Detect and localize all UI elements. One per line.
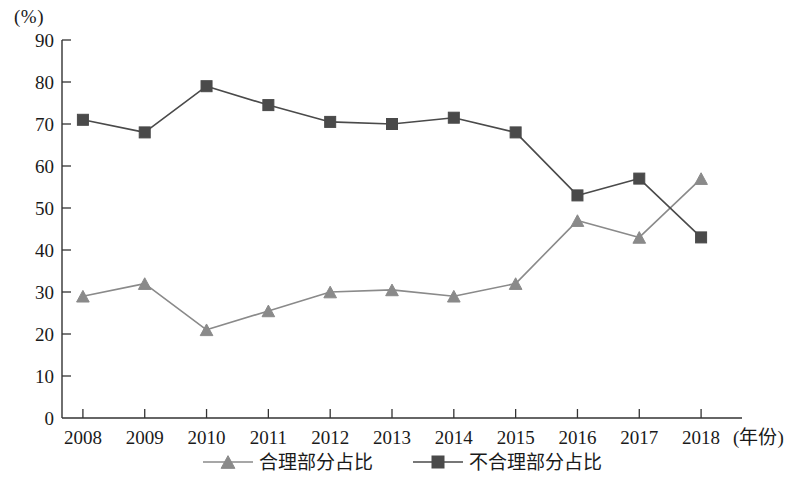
y-tick-label: 20 <box>8 325 54 344</box>
legend-item: 不合理部分占比 <box>411 452 602 472</box>
y-tick-label: 30 <box>8 283 54 302</box>
x-tick-label: 2008 <box>53 428 113 447</box>
square-marker-icon <box>411 452 465 472</box>
y-tick-label: 70 <box>8 115 54 134</box>
x-tick-label: 2018 <box>671 428 731 447</box>
x-axis-ticks <box>83 409 701 418</box>
legend-label: 合理部分占比 <box>259 453 373 472</box>
series-2 <box>77 81 706 243</box>
x-tick-label: 2014 <box>424 428 484 447</box>
series-1 <box>77 173 708 336</box>
y-tick-label: 50 <box>8 199 54 218</box>
line-chart: (%) 0102030405060708090 2008200920102011… <box>0 0 802 482</box>
y-tick-label: 60 <box>8 157 54 176</box>
x-tick-label: 2012 <box>300 428 360 447</box>
plot-svg <box>62 40 742 418</box>
axis-lines <box>62 40 742 418</box>
x-axis-title: (年份) <box>733 428 784 447</box>
y-tick-label: 40 <box>8 241 54 260</box>
y-tick-label: 80 <box>8 73 54 92</box>
x-tick-label: 2015 <box>486 428 546 447</box>
x-tick-label: 2016 <box>547 428 607 447</box>
plot-area <box>62 40 742 418</box>
triangle-marker-icon <box>201 452 255 472</box>
y-tick-label: 90 <box>8 31 54 50</box>
chart-legend: 合理部分占比不合理部分占比 <box>0 452 802 472</box>
y-tick-label: 10 <box>8 367 54 386</box>
legend-item: 合理部分占比 <box>201 452 373 472</box>
legend-label: 不合理部分占比 <box>469 453 602 472</box>
x-tick-label: 2009 <box>115 428 175 447</box>
x-tick-label: 2011 <box>238 428 298 447</box>
y-axis-unit-label: (%) <box>14 6 44 28</box>
y-tick-label: 0 <box>8 409 54 428</box>
y-axis-ticks <box>62 40 71 376</box>
x-tick-label: 2010 <box>177 428 237 447</box>
x-tick-label: 2017 <box>609 428 669 447</box>
x-tick-label: 2013 <box>362 428 422 447</box>
